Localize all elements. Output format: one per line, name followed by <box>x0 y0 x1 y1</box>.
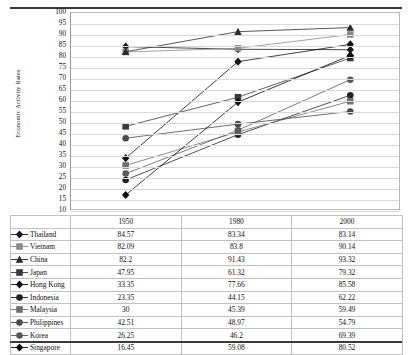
value-cell: 59.08 <box>181 341 292 354</box>
table-body: Thailand84.5783.3483.14Vietnam82.0983.89… <box>11 228 403 354</box>
y-tick-75: 75 <box>59 64 66 71</box>
y-tick-10: 10 <box>59 207 66 214</box>
top-divider-rule <box>10 7 402 9</box>
value-cell: 33.35 <box>71 278 182 291</box>
value-cell: 45.39 <box>181 304 292 317</box>
gridline-10 <box>71 211 399 212</box>
value-cell: 79.32 <box>292 266 403 279</box>
table-row: Singapore16.4559.0880.52 <box>11 341 403 354</box>
table-row: Vietnam82.0983.890.14 <box>11 241 403 254</box>
y-tick-55: 55 <box>59 108 66 115</box>
y-tick-30: 30 <box>59 163 66 170</box>
data-table: 1950 1980 2000 Thailand84.5783.3483.14Vi… <box>10 215 403 355</box>
gridline-15 <box>71 200 399 201</box>
data-table-region: 1950 1980 2000 Thailand84.5783.3483.14Vi… <box>10 215 402 355</box>
value-cell: 48.97 <box>181 316 292 329</box>
gridline-85 <box>71 46 399 47</box>
y-tick-20: 20 <box>59 185 66 192</box>
gridline-90 <box>71 35 399 36</box>
legend-cell-singapore: Singapore <box>11 341 71 354</box>
gridline-60 <box>71 101 399 102</box>
legend-cell-malaysia: Malaysia <box>11 304 71 317</box>
y-axis-tick-labels: 100959085807570656055504540353025201510 <box>42 12 68 210</box>
value-cell: 30 <box>71 304 182 317</box>
gridline-55 <box>71 112 399 113</box>
gridline-65 <box>71 90 399 91</box>
plot-region: Economic Activity Rates 1009590858075706… <box>0 12 412 222</box>
value-cell: 90.14 <box>292 241 403 254</box>
square-marker-icon <box>11 305 28 314</box>
y-tick-35: 35 <box>59 152 66 159</box>
value-cell: 16.45 <box>71 341 182 354</box>
series-label: Indonesia <box>30 293 59 302</box>
plot-area <box>70 12 400 210</box>
series-label: Hong Kong <box>30 280 65 289</box>
table-row: Malaysia3045.3959.49 <box>11 304 403 317</box>
value-cell: 83.34 <box>181 228 292 241</box>
gridline-30 <box>71 167 399 168</box>
value-cell: 93.32 <box>292 253 403 266</box>
legend-cell-philippines: Philippines <box>11 316 71 329</box>
legend-cell-indonesia: Indonesia <box>11 291 71 304</box>
value-cell: 47.95 <box>71 266 182 279</box>
value-cell: 91.43 <box>181 253 292 266</box>
value-cell: 44.15 <box>181 291 292 304</box>
y-tick-95: 95 <box>59 20 66 27</box>
y-tick-70: 70 <box>59 75 66 82</box>
value-cell: 46.2 <box>181 329 292 342</box>
value-cell: 83.14 <box>292 228 403 241</box>
value-cell: 62.22 <box>292 291 403 304</box>
value-cell: 23.35 <box>71 291 182 304</box>
diamond-marker-icon <box>11 343 28 352</box>
series-label: Japan <box>30 268 47 277</box>
table-row: Thailand84.5783.3483.14 <box>11 228 403 241</box>
y-tick-100: 100 <box>55 9 66 16</box>
column-header-2000: 2000 <box>292 216 403 229</box>
legend-cell-korea: Korea <box>11 329 71 342</box>
y-tick-85: 85 <box>59 42 66 49</box>
y-tick-40: 40 <box>59 141 66 148</box>
diamond-marker-icon <box>11 230 28 239</box>
gridline-40 <box>71 145 399 146</box>
circle-marker-icon <box>11 293 28 302</box>
series-label: Korea <box>30 331 48 340</box>
series-label: Thailand <box>30 230 56 239</box>
series-label: China <box>30 255 48 264</box>
square-marker-icon <box>11 242 28 251</box>
triangle-marker-icon <box>11 255 28 264</box>
y-tick-50: 50 <box>59 119 66 126</box>
series-label: Philippines <box>30 318 63 327</box>
table-row: Hong Kong33.3577.6685.58 <box>11 278 403 291</box>
series-label: Singapore <box>30 343 60 352</box>
y-tick-60: 60 <box>59 97 66 104</box>
series-japan <box>122 55 353 130</box>
gridline-20 <box>71 189 399 190</box>
legend-cell-china: China <box>11 253 71 266</box>
table-header-row: 1950 1980 2000 <box>11 216 403 229</box>
table-row: Japan47.9561.3279.32 <box>11 266 403 279</box>
value-cell: 84.57 <box>71 228 182 241</box>
value-cell: 54.79 <box>292 316 403 329</box>
gridline-95 <box>71 24 399 25</box>
value-cell: 69.39 <box>292 329 403 342</box>
circle-marker-icon <box>11 331 28 340</box>
legend-cell-japan: Japan <box>11 266 71 279</box>
y-tick-80: 80 <box>59 53 66 60</box>
table-row: Indonesia23.3544.1562.22 <box>11 291 403 304</box>
y-tick-90: 90 <box>59 31 66 38</box>
value-cell: 85.58 <box>292 278 403 291</box>
legend-header-blank <box>11 216 71 229</box>
value-cell: 82.2 <box>71 253 182 266</box>
y-tick-25: 25 <box>59 174 66 181</box>
gridline-35 <box>71 156 399 157</box>
square-marker-icon <box>11 268 28 277</box>
value-cell: 83.8 <box>181 241 292 254</box>
y-tick-45: 45 <box>59 130 66 137</box>
series-label: Vietnam <box>30 242 55 251</box>
gridline-50 <box>71 123 399 124</box>
value-cell: 26.25 <box>71 329 182 342</box>
value-cell: 77.66 <box>181 278 292 291</box>
gridline-80 <box>71 57 399 58</box>
y-tick-65: 65 <box>59 86 66 93</box>
series-lines-svg <box>71 13 399 209</box>
